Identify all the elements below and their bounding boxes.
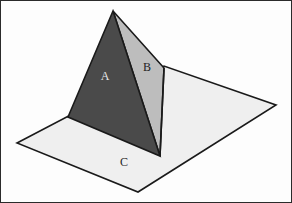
ground-plane-label: C <box>120 155 128 169</box>
diagram-canvas: A B C <box>0 0 292 203</box>
face-a-label: A <box>101 69 110 83</box>
face-b-label: B <box>143 60 151 74</box>
geometry-figure: A B C <box>0 0 292 203</box>
